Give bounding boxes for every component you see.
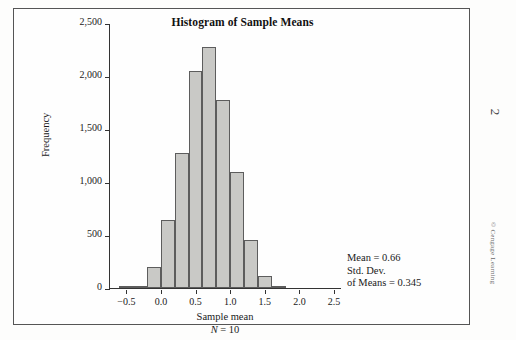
annotation-line-stddev-value: of Means = 0.345	[347, 277, 421, 290]
figure-page: Histogram of Sample Means Frequency 0500…	[0, 0, 516, 340]
y-tick-label: 2,500	[80, 16, 103, 27]
histogram-bar	[258, 276, 272, 288]
histogram-bar	[119, 286, 133, 288]
x-tick-label: 2.5	[328, 296, 341, 307]
y-tick-label: 1,000	[80, 175, 103, 186]
y-tick-mark	[105, 236, 110, 237]
x-tick-mark	[196, 290, 197, 294]
y-tick-label: 2,000	[80, 69, 103, 80]
y-tick-mark	[105, 24, 110, 25]
histogram-bar	[133, 286, 147, 288]
figure-frame: Histogram of Sample Means Frequency 0500…	[13, 8, 470, 325]
x-axis-sublabel: N = 10	[109, 323, 341, 336]
x-tick-mark	[299, 290, 300, 294]
y-tick-label: 0	[97, 281, 102, 292]
y-tick-label: 500	[87, 228, 102, 239]
statistics-annotation: Mean = 0.66 Std. Dev. of Means = 0.345	[347, 252, 421, 290]
x-tick-mark	[161, 290, 162, 294]
x-tick-label: 2.0	[293, 296, 306, 307]
x-axis-line	[109, 288, 341, 289]
histogram-bar	[189, 71, 203, 288]
histogram-bar	[161, 220, 175, 288]
histogram-bar	[202, 47, 216, 288]
y-tick-mark	[105, 77, 110, 78]
histogram-bar	[230, 172, 244, 288]
x-axis-label: Sample mean	[109, 310, 341, 323]
histogram-bar	[244, 240, 258, 288]
x-axis-label-block: Sample mean N = 10	[109, 310, 341, 336]
x-tick-label: 0.5	[189, 296, 202, 307]
y-axis-label: Frequency	[40, 113, 51, 157]
page-number: 2	[487, 109, 503, 116]
x-tick-mark	[230, 290, 231, 294]
y-tick-label: 1,500	[80, 122, 103, 133]
annotation-line-mean: Mean = 0.66	[347, 252, 421, 265]
copyright-notice: © Cengage Learning	[489, 222, 497, 284]
histogram-bar	[175, 153, 189, 288]
x-tick-label: 1.5	[259, 296, 272, 307]
x-tick-mark	[126, 290, 127, 294]
plot-area: 05001,0001,5002,0002,500 −0.50.00.51.01.…	[109, 24, 341, 289]
x-tick-label: 1.0	[224, 296, 237, 307]
x-tick-mark	[334, 290, 335, 294]
x-tick-label: −0.5	[117, 296, 135, 307]
y-tick-mark	[105, 183, 110, 184]
x-tick-mark	[265, 290, 266, 294]
y-axis-line	[109, 24, 110, 289]
histogram-bar	[272, 286, 286, 288]
histogram-bar	[216, 100, 230, 288]
annotation-line-stddev: Std. Dev.	[347, 265, 421, 278]
x-tick-label: 0.0	[155, 296, 168, 307]
y-tick-mark	[105, 130, 110, 131]
histogram-bar	[147, 267, 161, 288]
y-tick-mark	[105, 289, 110, 290]
